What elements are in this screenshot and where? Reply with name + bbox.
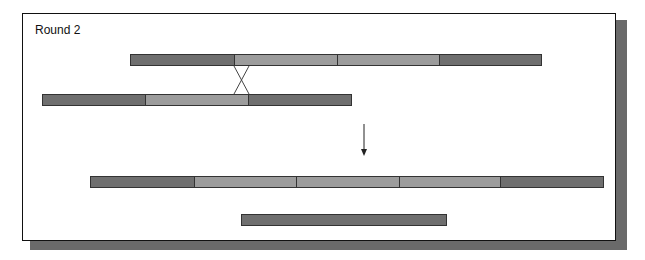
crossover-x-icon [234, 66, 249, 94]
down-arrow-icon [361, 124, 367, 156]
annotations [0, 0, 645, 260]
